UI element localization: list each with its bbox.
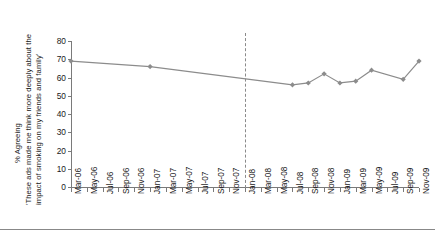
data-point-marker bbox=[68, 58, 73, 63]
series-line bbox=[71, 61, 419, 85]
data-point-marker bbox=[306, 80, 311, 85]
data-series-plot bbox=[0, 0, 435, 238]
data-point-marker bbox=[147, 64, 152, 69]
data-point-marker bbox=[290, 82, 295, 87]
data-point-marker bbox=[321, 71, 326, 76]
chart-container: % Agreeing 'These ads made me think more… bbox=[0, 0, 435, 238]
data-point-marker bbox=[337, 80, 342, 85]
footer-divider bbox=[0, 229, 435, 230]
